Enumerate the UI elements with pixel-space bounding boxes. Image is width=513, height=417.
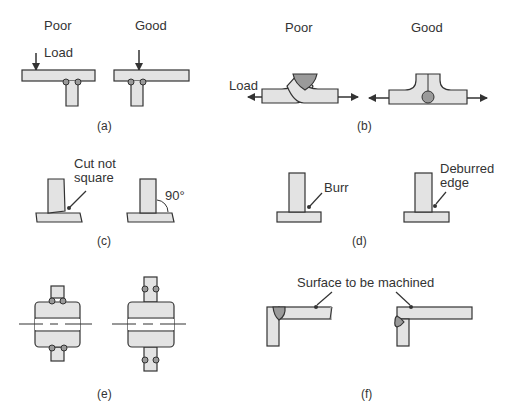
panel-c-note-poor-line2: square — [74, 171, 114, 185]
weld-bead-icon — [422, 91, 434, 103]
panel-b-poor-label: Poor — [285, 21, 312, 35]
panel-d-poor — [277, 173, 322, 222]
panel-a-poor-label: Poor — [44, 19, 71, 33]
panel-a-good — [114, 50, 189, 106]
weld-bead-icon — [140, 79, 146, 85]
weld-bead-icon — [49, 345, 55, 351]
panel-b-poor — [248, 74, 358, 103]
panel-a-load-label: Load — [44, 46, 73, 60]
panel-d-note-burr: Burr — [324, 181, 349, 195]
panel-b-caption: (b) — [357, 119, 372, 133]
panel-e-poor — [19, 286, 92, 361]
weld-bead-icon — [153, 357, 159, 363]
callout-dot-icon — [433, 204, 437, 208]
panel-a-caption: (a) — [97, 119, 112, 133]
figure-drawing — [0, 0, 513, 417]
panel-c-angle-label: 90° — [165, 189, 185, 203]
weld-bead-icon — [142, 286, 148, 292]
panel-c-caption: (c) — [97, 234, 111, 248]
panel-f-poor — [267, 292, 332, 346]
weld-bead-icon — [63, 79, 69, 85]
weld-bead-icon — [75, 79, 81, 85]
panel-c-poor — [36, 179, 86, 222]
panel-a-poor — [22, 53, 95, 106]
weld-bead-icon — [49, 298, 55, 304]
panel-b-good — [369, 74, 487, 104]
weld-bead-icon — [142, 357, 148, 363]
panel-b-load-label: Load — [229, 79, 258, 93]
weld-bead-icon — [153, 286, 159, 292]
callout-dot-icon — [409, 305, 413, 309]
panel-e-caption: (e) — [97, 387, 112, 401]
panel-c-note-poor-line1: Cut not — [74, 157, 116, 171]
panel-d-note-good-line2: edge — [440, 176, 469, 190]
callout-dot-icon — [67, 206, 71, 210]
panel-f-note: Surface to be machined — [297, 276, 434, 290]
panel-e-good — [112, 277, 186, 371]
weld-bead-icon — [128, 79, 134, 85]
panel-d-caption: (d) — [352, 234, 367, 248]
callout-dot-icon — [314, 305, 318, 309]
weld-bead-icon — [60, 298, 66, 304]
panel-f-caption: (f) — [361, 387, 372, 401]
panel-f-good — [395, 292, 472, 346]
panel-b-good-label: Good — [411, 21, 443, 35]
weld-bead-icon — [61, 345, 67, 351]
callout-dot-icon — [307, 205, 311, 209]
panel-a-good-label: Good — [135, 19, 167, 33]
panel-d-note-good-line1: Deburred — [440, 162, 494, 176]
